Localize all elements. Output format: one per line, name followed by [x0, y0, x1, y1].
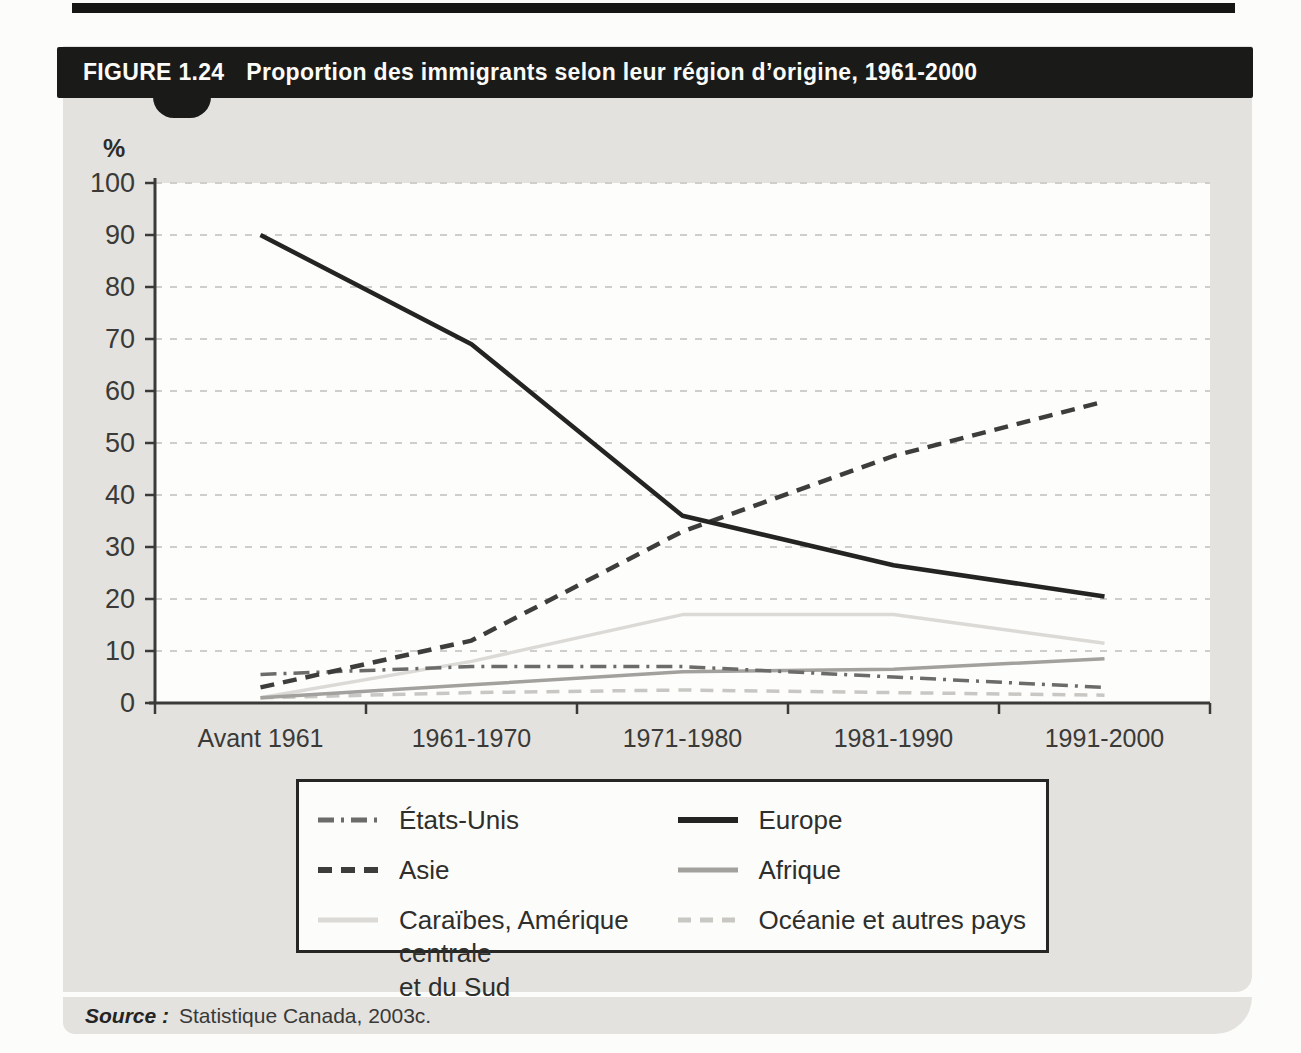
y-tick-label-50: 50	[105, 428, 135, 458]
immigration-line-chart: 0102030405060708090100Avant 19611961-197…	[63, 110, 1252, 770]
y-tick-label-20: 20	[105, 584, 135, 614]
y-tick-label-100: 100	[90, 168, 135, 198]
y-tick-label-30: 30	[105, 532, 135, 562]
page-top-rule	[72, 3, 1235, 13]
x-tick-label-1: 1961-1970	[412, 724, 532, 752]
y-tick-label-70: 70	[105, 324, 135, 354]
source-line: Source : Statistique Canada, 2003c.	[63, 997, 1252, 1034]
x-tick-label-3: 1981-1990	[834, 724, 954, 752]
figure-header-bar: FIGURE 1.24 Proportion des immigrants se…	[57, 47, 1253, 98]
legend-label-afrique: Afrique	[759, 854, 841, 888]
legend-item-europe: Europe	[677, 804, 1037, 838]
source-text: Statistique Canada, 2003c.	[179, 1004, 431, 1028]
y-tick-label-0: 0	[120, 688, 135, 718]
legend-swatch-etats-unis	[317, 814, 379, 826]
x-tick-label-0: Avant 1961	[197, 724, 323, 752]
legend-label-europe: Europe	[759, 804, 843, 838]
legend-swatch-oceanie	[677, 914, 739, 926]
y-tick-label-90: 90	[105, 220, 135, 250]
y-tick-label-60: 60	[105, 376, 135, 406]
legend-item-asie: Asie	[317, 854, 677, 888]
source-label: Source :	[85, 1004, 169, 1028]
legend-item-caraibes: Caraïbes, Amérique centrale et du Sud	[317, 904, 677, 1005]
legend-swatch-europe	[677, 814, 739, 826]
legend-item-afrique: Afrique	[677, 854, 1037, 888]
legend-item-etats-unis: États-Unis	[317, 804, 677, 838]
legend-item-oceanie: Océanie et autres pays	[677, 904, 1037, 1005]
y-tick-label-10: 10	[105, 636, 135, 666]
scanned-textbook-figure-page: { "figure": { "label": "FIGURE 1.24", "t…	[0, 0, 1301, 1053]
legend-label-etats-unis: États-Unis	[399, 804, 519, 838]
y-tick-label-80: 80	[105, 272, 135, 302]
figure-title: Proportion des immigrants selon leur rég…	[246, 59, 977, 86]
legend-swatch-caraibes	[317, 914, 379, 926]
figure-label: FIGURE 1.24	[83, 59, 224, 86]
x-tick-label-2: 1971-1980	[623, 724, 743, 752]
legend-label-asie: Asie	[399, 854, 450, 888]
y-tick-label-40: 40	[105, 480, 135, 510]
legend-label-caraibes: Caraïbes, Amérique centrale et du Sud	[399, 904, 677, 1005]
legend-swatch-asie	[317, 864, 379, 876]
legend-label-oceanie: Océanie et autres pays	[759, 904, 1026, 938]
legend-swatch-afrique	[677, 864, 739, 876]
chart-area: 0102030405060708090100Avant 19611961-197…	[63, 110, 1252, 770]
x-tick-label-4: 1991-2000	[1045, 724, 1165, 752]
chart-legend: États-UnisEuropeAsieAfriqueCaraïbes, Amé…	[296, 779, 1049, 953]
